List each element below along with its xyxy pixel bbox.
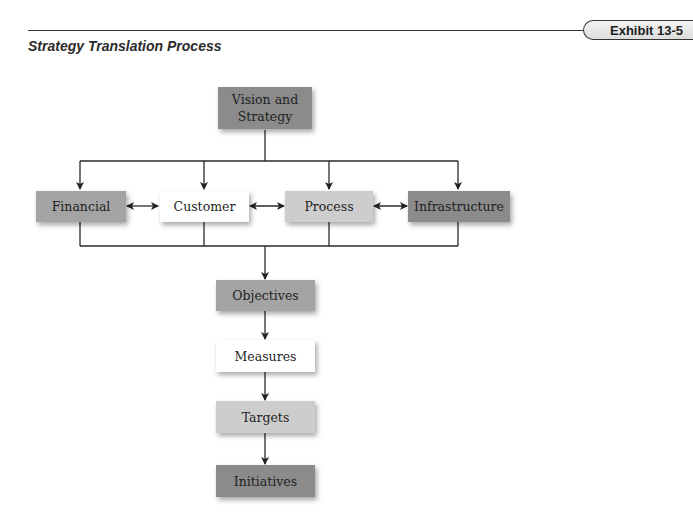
chain-label: Initiatives [234, 474, 297, 489]
initiatives-box: Initiatives [216, 465, 315, 497]
perspective-label: Process [304, 199, 353, 214]
chain-label: Measures [235, 349, 297, 364]
perspective-label: Infrastructure [414, 199, 504, 214]
objectives-box: Objectives [216, 280, 315, 311]
perspective-process: Process [285, 191, 373, 222]
perspective-label: Financial [52, 199, 111, 214]
perspective-customer: Customer [160, 191, 249, 222]
measures-box: Measures [216, 340, 315, 372]
targets-box: Targets [216, 401, 315, 433]
vision-strategy-box: Vision and Strategy [218, 87, 312, 129]
perspective-financial: Financial [36, 191, 126, 222]
perspective-infrastructure: Infrastructure [408, 191, 510, 222]
vision-strategy-line2: Strategy [238, 108, 293, 125]
vision-strategy-line1: Vision and [232, 91, 298, 108]
chain-label: Targets [242, 410, 290, 425]
chain-label: Objectives [232, 288, 298, 303]
perspective-label: Customer [174, 199, 236, 214]
